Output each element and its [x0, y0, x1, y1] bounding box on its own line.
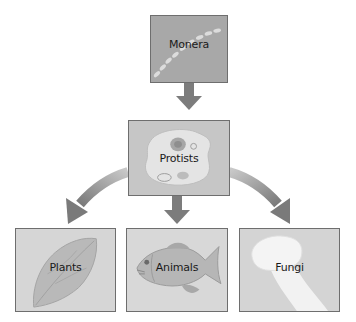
label-protists: Protists — [129, 152, 229, 165]
label-fungi: Fungi — [240, 261, 339, 274]
arrow-monera-to-protists — [176, 83, 202, 110]
arrow-protists-to-plants — [66, 172, 128, 224]
node-protists: Protists — [128, 120, 230, 196]
node-fungi: Fungi — [239, 228, 340, 312]
node-plants: Plants — [15, 228, 116, 312]
node-monera: Monera — [150, 15, 228, 83]
label-monera: Monera — [151, 38, 227, 51]
label-animals: Animals — [127, 261, 227, 274]
arrow-protists-to-fungi — [229, 172, 290, 224]
node-animals: Animals — [126, 228, 228, 312]
arrow-protists-to-animals — [164, 196, 190, 224]
label-plants: Plants — [16, 261, 115, 274]
